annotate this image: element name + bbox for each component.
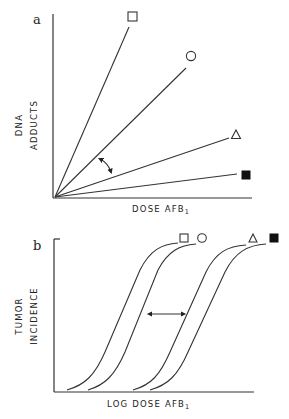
panel-b: b LOG DOSE AFB1 TUMOR INCIDENCE <box>14 234 278 411</box>
marker-triangle-icon <box>249 234 257 242</box>
marker-square-icon <box>180 234 188 242</box>
marker-filled-square-icon <box>242 171 250 179</box>
figure: a DOSE AFB1 DNA ADDUCTS b <box>0 0 289 419</box>
panel-a-x-label: DOSE AFB1 <box>132 204 190 216</box>
marker-triangle-icon <box>232 130 241 139</box>
curve-triangle <box>133 245 246 390</box>
curve-filled-square <box>150 244 266 390</box>
panel-b-curves <box>67 243 266 390</box>
line-square <box>55 27 129 197</box>
panel-a-y-label-2: ADDUCTS <box>29 100 39 150</box>
panel-b-y-label-2: INCIDENCE <box>29 287 39 345</box>
panel-a: a DOSE AFB1 DNA ADDUCTS <box>14 12 252 216</box>
panel-a-y-label-1: DNA <box>14 114 24 136</box>
marker-filled-square-icon <box>270 234 278 242</box>
curved-arrow-icon <box>100 159 111 172</box>
panel-b-x-label: LOG DOSE AFB1 <box>107 399 190 411</box>
line-triangle <box>55 138 229 197</box>
marker-circle-icon <box>198 234 207 243</box>
panel-a-lines <box>55 27 237 197</box>
marker-circle-icon <box>186 51 195 60</box>
panel-b-label: b <box>33 238 41 253</box>
marker-square-icon <box>128 12 137 21</box>
panel-b-y-label-1: TUMOR <box>14 297 24 335</box>
panel-a-label: a <box>33 12 41 27</box>
line-filled-square <box>55 174 237 197</box>
line-circle <box>55 68 186 197</box>
